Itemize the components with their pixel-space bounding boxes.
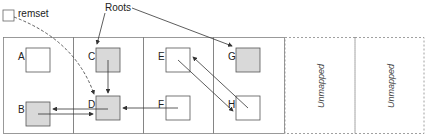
edge-roots-C: [97, 13, 105, 44]
object-label-B: B: [18, 104, 25, 115]
object-label-G: G: [228, 51, 236, 62]
edge-roots-G: [132, 8, 232, 46]
object-label-H: H: [228, 99, 235, 110]
object-label-E: E: [158, 51, 165, 62]
object-label-A: A: [18, 51, 25, 62]
remset-label: remset: [18, 8, 49, 19]
roots-label: Roots: [105, 2, 131, 13]
object-D: [96, 96, 120, 120]
object-label-C: C: [88, 51, 95, 62]
object-A: [26, 48, 50, 72]
unmapped-label-2: Unmapped: [386, 63, 396, 108]
heap-diagram: remset Roots Unmapped Unmapped A B C D E…: [0, 0, 427, 140]
unmapped-regions: [285, 38, 424, 134]
object-G: [236, 48, 260, 72]
unmapped-label-1: Unmapped: [316, 63, 326, 108]
remset-legend-box: [3, 10, 14, 21]
object-label-D: D: [88, 99, 95, 110]
